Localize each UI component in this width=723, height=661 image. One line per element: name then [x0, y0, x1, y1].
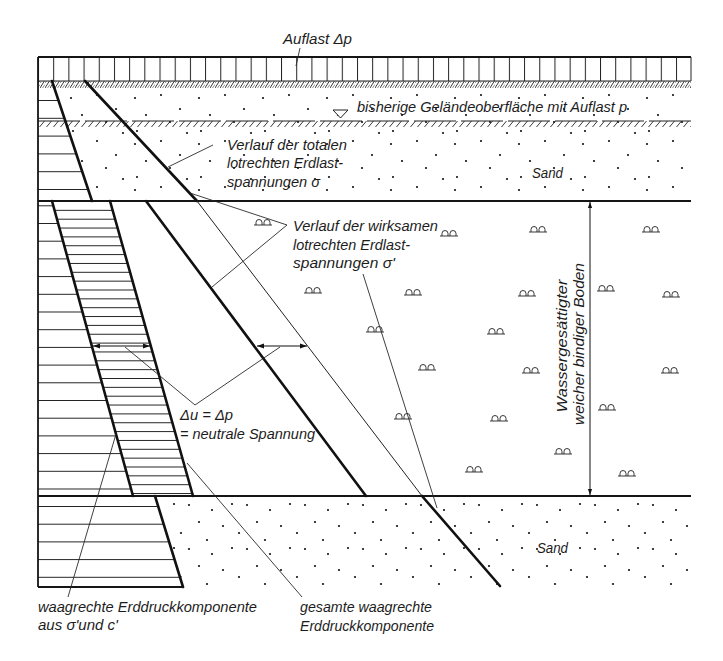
svg-text:= neutrale Spannung: = neutrale Spannung	[180, 425, 316, 442]
lower-sand-label: Sand	[537, 539, 569, 556]
load-label: Auflast Δp	[282, 31, 352, 47]
lower-sand-layer	[38, 496, 691, 587]
svg-text:lotrechten Erdlast-: lotrechten Erdlast-	[293, 236, 410, 253]
previous-ground-surface-line	[38, 121, 691, 127]
clay-layer	[38, 201, 193, 496]
previous-surface-label: bisherige Geländeoberfläche mit Auflast …	[357, 98, 627, 115]
svg-text:Verlauf der totalen: Verlauf der totalen	[227, 136, 347, 153]
svg-text:Δu = Δp: Δu = Δp	[179, 406, 233, 423]
total-horizontal-label: gesamte waagrechte Erddruckkomponente	[300, 598, 434, 634]
svg-text:spannungen σ': spannungen σ'	[293, 254, 396, 271]
horizontal-component-label: waagrechte Erddruckkomponente aus σ'und …	[38, 598, 257, 633]
upper-sand-label: Sand	[532, 164, 564, 181]
svg-text:Erddruckkomponente: Erddruckkomponente	[300, 617, 434, 634]
svg-text:Verlauf der wirksamen: Verlauf der wirksamen	[293, 217, 438, 234]
pore-pressure-label: Δu = Δp = neutrale Spannung	[179, 406, 316, 442]
svg-text:gesamte waagrechte: gesamte waagrechte	[300, 598, 432, 615]
earth-pressure-diagram: Auflast Δp bisherige Geländeoberfläche m…	[0, 0, 723, 661]
svg-text:weicher bindiger Boden: weicher bindiger Boden	[570, 263, 587, 425]
clay-layer-label: Wassergesättigter weicher bindiger Boden	[553, 263, 587, 425]
svg-text:waagrechte Erddruckkomponente: waagrechte Erddruckkomponente	[38, 598, 257, 615]
surface-hatch-band	[38, 81, 691, 88]
svg-text:spannungen σ: spannungen σ	[227, 173, 321, 190]
svg-text:lotrechten Erdlast-: lotrechten Erdlast-	[227, 154, 343, 171]
load-strip	[38, 57, 691, 81]
svg-text:Wassergesättigter: Wassergesättigter	[553, 278, 570, 412]
effective-stress-label: Verlauf der wirksamen lotrechten Erdlast…	[293, 217, 438, 271]
svg-text:aus σ'und c': aus σ'und c'	[38, 616, 119, 633]
